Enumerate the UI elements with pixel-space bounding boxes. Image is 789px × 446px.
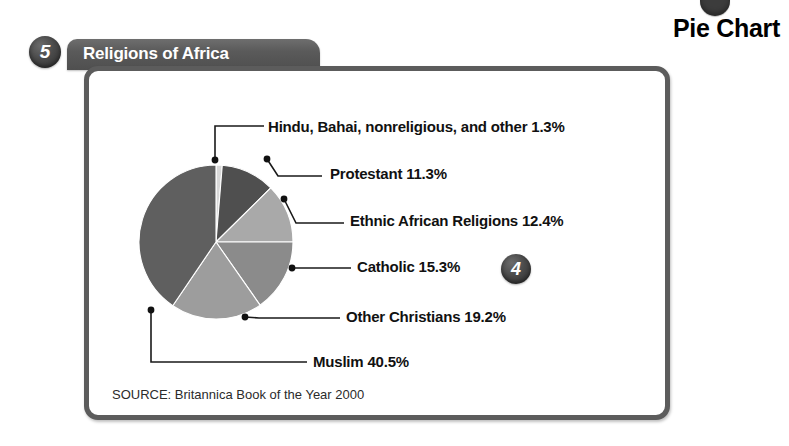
pie-label-ethnic-african: Ethnic African Religions 12.4% [350,212,564,229]
pie-label-catholic: Catholic 15.3% [357,258,460,275]
page-title: Pie Chart [673,14,780,43]
pie-label-other-christians: Other Christians 19.2% [346,308,506,325]
pie-label-hindu-bahai-other: Hindu, Bahai, nonreligious, and other 1.… [268,118,565,135]
source-note: SOURCE: Britannica Book of the Year 2000 [112,387,364,402]
section-number-badge: 5 [29,36,61,68]
annotation-number-badge: 4 [501,254,531,284]
chart-title-label: Religions of Africa [83,44,229,64]
pie-label-muslim: Muslim 40.5% [313,353,409,370]
pie-label-protestant: Protestant 11.3% [330,165,447,182]
